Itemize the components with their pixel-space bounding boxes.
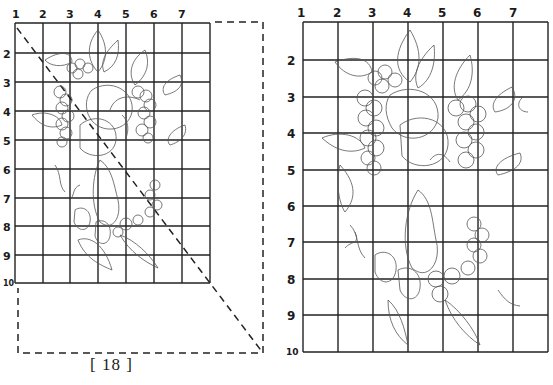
svg-text:7: 7 <box>509 6 517 20</box>
svg-text:4: 4 <box>3 106 11 119</box>
left-enlargement-guide <box>17 22 263 353</box>
svg-text:6: 6 <box>287 200 295 214</box>
svg-text:1: 1 <box>297 6 305 20</box>
svg-text:2: 2 <box>333 6 341 20</box>
right-grid <box>303 22 548 352</box>
page-number: [ 18 ] <box>90 355 133 375</box>
left-column-labels: 1 2 3 4 5 6 7 <box>12 8 186 21</box>
svg-text:5: 5 <box>3 135 11 148</box>
svg-text:10: 10 <box>3 279 15 288</box>
svg-text:3: 3 <box>66 8 74 21</box>
left-row-labels: 2 3 4 5 6 7 8 9 10 <box>3 48 15 288</box>
svg-text:9: 9 <box>287 309 295 323</box>
svg-text:6: 6 <box>473 6 481 20</box>
svg-text:6: 6 <box>3 164 11 177</box>
right-column-labels: 1 2 3 4 5 6 7 <box>297 6 517 20</box>
svg-text:10: 10 <box>286 347 299 357</box>
svg-text:2: 2 <box>287 54 295 68</box>
svg-text:5: 5 <box>438 6 446 20</box>
svg-text:7: 7 <box>3 193 11 206</box>
svg-text:3: 3 <box>287 91 295 105</box>
svg-text:5: 5 <box>287 164 295 178</box>
svg-text:4: 4 <box>287 127 295 141</box>
svg-text:6: 6 <box>150 8 158 21</box>
right-wreath-drawing <box>322 30 528 345</box>
svg-text:8: 8 <box>287 273 295 287</box>
svg-text:4: 4 <box>94 8 102 21</box>
svg-text:3: 3 <box>3 77 11 90</box>
svg-text:3: 3 <box>368 6 376 20</box>
svg-text:7: 7 <box>287 236 295 250</box>
svg-text:7: 7 <box>178 8 186 21</box>
svg-text:4: 4 <box>403 6 411 20</box>
pattern-page: 1 2 3 4 5 6 7 2 3 4 5 6 7 8 9 10 <box>0 0 553 385</box>
svg-text:8: 8 <box>3 221 11 234</box>
svg-text:1: 1 <box>12 8 20 21</box>
svg-text:5: 5 <box>122 8 130 21</box>
svg-text:9: 9 <box>3 250 11 263</box>
left-wreath-drawing <box>32 30 186 270</box>
right-row-labels: 2 3 4 5 6 7 8 9 10 <box>286 54 299 357</box>
svg-text:2: 2 <box>3 48 11 61</box>
svg-text:2: 2 <box>39 8 47 21</box>
